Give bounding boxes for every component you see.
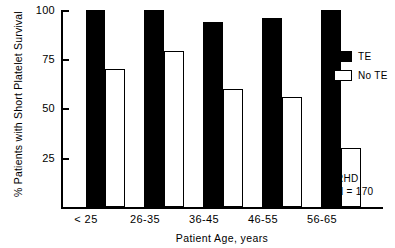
y-tick-label-25: 25	[15, 152, 55, 164]
y-tick-label-100: 100	[15, 4, 55, 16]
bar-note-lt25	[105, 69, 125, 207]
x-tick-label-1: 26-35	[115, 213, 175, 225]
legend-item-te: TE	[334, 48, 388, 64]
chart-legend: TE No TE	[334, 48, 388, 86]
plot-area	[61, 10, 383, 207]
annotation-line-n: N = 170	[336, 185, 373, 198]
legend-label-te: TE	[358, 51, 371, 62]
bar-note-46-55	[282, 97, 302, 207]
bar-te-36-45	[203, 22, 223, 207]
chart-annotation: RHD N = 170	[336, 172, 373, 198]
bar-note-26-35	[164, 51, 184, 207]
legend-swatch-no-te-icon	[334, 70, 352, 81]
bar-note-36-45	[223, 89, 243, 207]
legend-label-no-te: No TE	[358, 70, 388, 81]
annotation-line-rhd: RHD	[336, 172, 373, 185]
y-tick-label-50: 50	[15, 102, 55, 114]
x-axis-line	[61, 207, 383, 209]
x-tick-label-3: 46-55	[233, 213, 293, 225]
legend-item-no-te: No TE	[334, 67, 388, 83]
y-tick-label-75: 75	[15, 53, 55, 65]
bar-te-lt25	[86, 10, 105, 207]
x-axis-title: Patient Age, years	[61, 232, 383, 244]
x-tick-label-4: 56-65	[292, 213, 352, 225]
legend-swatch-te-icon	[334, 51, 352, 62]
x-tick-label-2: 36-45	[174, 213, 234, 225]
x-tick-label-0: < 25	[56, 213, 116, 225]
bar-te-26-35	[144, 10, 164, 207]
chart-figure: % Patients with Short Platelet Survival …	[0, 0, 395, 248]
bar-te-46-55	[262, 18, 282, 207]
